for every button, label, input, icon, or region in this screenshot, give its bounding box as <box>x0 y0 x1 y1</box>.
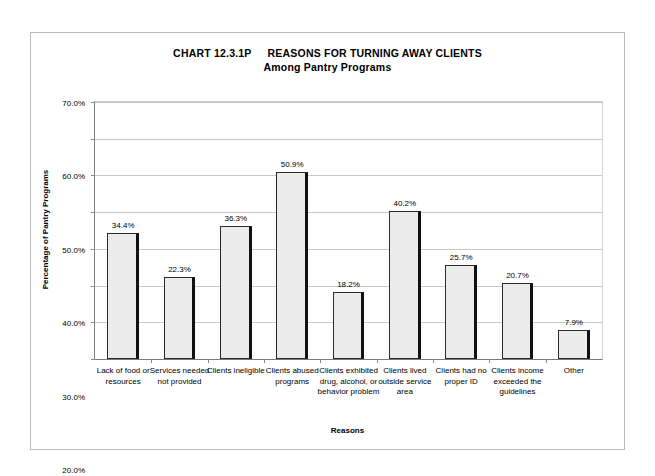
chart-title-main: REASONS FOR TURNING AWAY CLIENTS <box>268 47 482 59</box>
bar[interactable] <box>164 277 196 359</box>
bar-value-label: 34.4% <box>95 221 151 230</box>
chart-title-line1: CHART 12.3.1PREASONS FOR TURNING AWAY CL… <box>31 47 624 59</box>
x-axis-tick <box>489 359 490 363</box>
bar[interactable] <box>558 330 590 359</box>
bar[interactable] <box>389 211 421 359</box>
bar[interactable] <box>333 292 365 359</box>
x-axis-tick <box>264 359 265 363</box>
y-axis-title: Percentage of Pantry Programs <box>39 101 53 358</box>
x-axis-tick <box>208 359 209 363</box>
chart-number: CHART 12.3.1P <box>173 47 251 59</box>
bar-value-label: 50.9% <box>264 160 320 169</box>
bar[interactable] <box>220 226 252 359</box>
x-axis-tick <box>433 359 434 363</box>
bar-value-label: 25.7% <box>433 253 489 262</box>
bar-group: 22.3%Services needed not provided <box>151 102 207 359</box>
bar-group: 34.4%Lack of food or resources <box>95 102 151 359</box>
x-axis-title: Reasons <box>94 426 601 435</box>
x-axis-category-label: Other <box>539 366 609 377</box>
bar-value-label: 20.7% <box>489 271 545 280</box>
bar-group: 25.7%Clients had no proper ID <box>433 102 489 359</box>
y-axis-tick: 0.0% <box>91 359 95 360</box>
y-axis-tick-label: 60.0% <box>62 172 85 181</box>
bar-group: 7.9%Other <box>546 102 602 359</box>
chart-subtitle: Among Pantry Programs <box>31 61 624 73</box>
bar-value-label: 7.9% <box>546 318 602 327</box>
y-axis-tick-label: 70.0% <box>62 99 85 108</box>
y-axis-title-text: Percentage of Pantry Programs <box>42 170 51 290</box>
x-axis-tick <box>546 359 547 363</box>
bar-group: 50.9%Clients abused programs <box>264 102 320 359</box>
bar-group: 36.3%Clients ineligible <box>208 102 264 359</box>
bar[interactable] <box>107 233 139 359</box>
bar-group: 18.2%Clients exhibited drug, alcohol, or… <box>320 102 376 359</box>
chart-frame: CHART 12.3.1PREASONS FOR TURNING AWAY CL… <box>30 32 625 450</box>
bar-value-label: 40.2% <box>377 199 433 208</box>
bar[interactable] <box>445 265 477 359</box>
bar-value-label: 18.2% <box>320 280 376 289</box>
bar-value-label: 22.3% <box>151 265 207 274</box>
y-axis-tick-label: 30.0% <box>62 392 85 401</box>
bar[interactable] <box>276 172 308 359</box>
chart-title-block: CHART 12.3.1PREASONS FOR TURNING AWAY CL… <box>31 47 624 73</box>
bar-group: 40.2%Clients lived outside service area <box>377 102 433 359</box>
y-axis-tick-label: 40.0% <box>62 319 85 328</box>
bar-value-label: 36.3% <box>208 214 264 223</box>
x-axis-tick <box>377 359 378 363</box>
plot-area: 0.0%10.0%20.0%30.0%40.0%50.0%60.0%70.0%3… <box>94 101 603 360</box>
x-axis-tick <box>320 359 321 363</box>
y-axis-tick-label: 20.0% <box>62 466 85 475</box>
bar[interactable] <box>502 283 534 359</box>
x-axis-tick <box>151 359 152 363</box>
bar-group: 20.7%Clients income exceeded the guideli… <box>489 102 545 359</box>
y-axis-tick-label: 50.0% <box>62 245 85 254</box>
